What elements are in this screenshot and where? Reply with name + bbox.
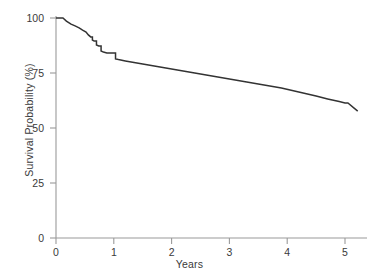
survival-curve-line: [56, 18, 358, 111]
x-axis-title: Years: [0, 258, 379, 270]
x-tick-label-1: 1: [104, 247, 124, 258]
y-axis-ticks: [50, 18, 56, 238]
y-axis-title: Survival Probability (%): [23, 30, 35, 210]
x-tick-label-2: 2: [162, 247, 182, 258]
x-tick-label-0: 0: [46, 247, 66, 258]
y-tick-label-100: 100: [14, 13, 44, 24]
x-tick-label-3: 3: [219, 247, 239, 258]
x-tick-label-5: 5: [335, 247, 355, 258]
survival-curve-chart: 100 75 50 25 0 0 1 2 3 4 5 Years Surviva…: [0, 0, 379, 279]
x-tick-label-4: 4: [277, 247, 297, 258]
plot-area: [0, 0, 379, 279]
x-axis-ticks: [56, 238, 345, 244]
y-tick-label-0: 0: [14, 233, 44, 244]
